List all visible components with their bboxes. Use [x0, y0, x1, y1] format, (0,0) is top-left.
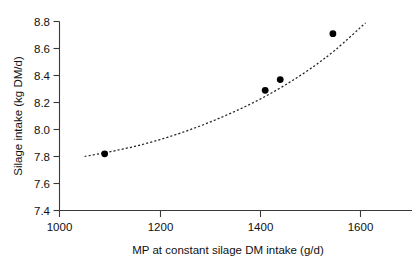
- y-axis-title: Silage intake (kg DM/d): [12, 56, 24, 176]
- scatter-plot-canvas: 8.8 8.6 8.4 8.2 8.0 7.8 7.6 7.4 1000 120…: [0, 0, 417, 267]
- data-points-group: [101, 30, 336, 157]
- y-axis-tick-labels: 8.8 8.6 8.4 8.2 8.0 7.8 7.6 7.4: [34, 16, 51, 217]
- x-axis-title: MP at constant silage DM intake (g/d): [132, 244, 324, 256]
- data-point: [101, 150, 108, 157]
- y-tick-label: 7.8: [34, 151, 50, 163]
- y-tick-label: 8.4: [34, 70, 51, 82]
- x-axis-tick-labels: 1000 1200 1400 1600: [47, 221, 374, 233]
- y-axis-ticks: [54, 22, 60, 211]
- y-tick-label: 7.6: [34, 178, 50, 190]
- data-point: [262, 87, 269, 94]
- y-tick-label: 8.8: [34, 16, 50, 28]
- x-tick-label: 1400: [248, 221, 274, 233]
- y-tick-label: 7.4: [34, 205, 51, 217]
- data-point: [277, 76, 284, 83]
- x-tick-label: 1600: [348, 221, 374, 233]
- y-tick-label: 8.6: [34, 43, 50, 55]
- x-tick-label: 1000: [47, 221, 73, 233]
- fitted-curve: [85, 23, 366, 157]
- chart-figure: 8.8 8.6 8.4 8.2 8.0 7.8 7.6 7.4 1000 120…: [0, 0, 417, 267]
- y-tick-label: 8.0: [34, 124, 50, 136]
- y-tick-label: 8.2: [34, 97, 50, 109]
- x-tick-label: 1200: [148, 221, 174, 233]
- data-point: [330, 30, 337, 37]
- x-axis-ticks: [60, 211, 361, 218]
